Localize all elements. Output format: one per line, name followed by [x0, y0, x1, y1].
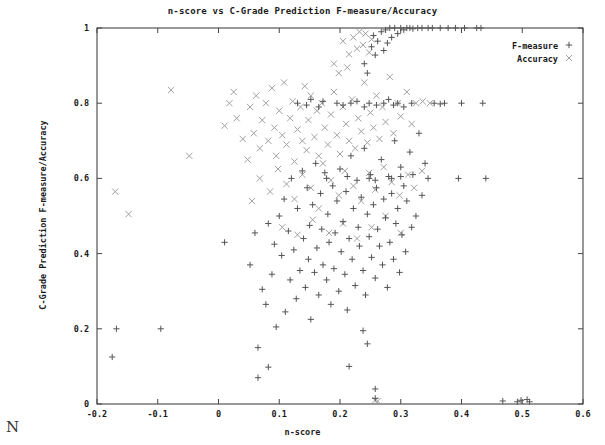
data-point-f-measure — [416, 130, 422, 136]
data-point-f-measure — [294, 205, 300, 211]
data-point-accuracy — [263, 100, 269, 106]
data-point-accuracy — [411, 185, 417, 191]
legend-markers — [566, 42, 572, 61]
data-point-f-measure — [311, 269, 317, 275]
data-point-accuracy — [420, 98, 426, 104]
data-point-accuracy — [336, 192, 342, 198]
data-point-accuracy — [265, 138, 271, 144]
data-point-f-measure — [221, 239, 227, 245]
data-point-f-measure — [413, 213, 419, 219]
data-point-f-measure — [375, 38, 381, 44]
y-axis-label: C-Grade Prediction F-measure/Accuracy — [38, 65, 48, 365]
x-tick-label: 0.5 — [502, 409, 542, 419]
data-point-f-measure — [452, 25, 458, 31]
data-point-accuracy — [354, 46, 360, 52]
data-point-accuracy — [350, 183, 356, 189]
data-point-f-measure — [307, 222, 313, 228]
data-point-accuracy — [294, 126, 300, 132]
scatter-plot-figure: n-score vs C-Grade Prediction F-measure/… — [0, 0, 605, 445]
data-point-f-measure — [387, 239, 393, 245]
data-point-accuracy — [271, 125, 277, 131]
data-point-f-measure — [322, 170, 328, 176]
data-point-accuracy — [358, 128, 364, 134]
data-point-f-measure — [360, 267, 366, 273]
data-point-accuracy — [366, 49, 372, 55]
data-point-f-measure — [348, 153, 354, 159]
data-point-accuracy — [226, 100, 232, 106]
data-point-accuracy — [251, 130, 257, 136]
y-tick-label: 0 — [49, 399, 89, 409]
data-point-f-measure — [287, 277, 293, 283]
data-point-f-measure — [303, 102, 309, 108]
data-point-accuracy — [409, 121, 415, 127]
data-point-f-measure — [372, 275, 378, 281]
data-point-f-measure — [282, 309, 288, 315]
data-point-f-measure — [336, 288, 342, 294]
data-point-f-measure — [370, 202, 376, 208]
data-point-f-measure — [330, 183, 336, 189]
y-tick-label: 0.4 — [49, 249, 89, 259]
data-point-accuracy — [368, 224, 374, 230]
data-point-f-measure — [247, 262, 253, 268]
data-point-f-measure — [338, 249, 344, 255]
data-point-f-measure — [310, 202, 316, 208]
data-point-f-measure — [276, 213, 282, 219]
data-point-accuracy — [382, 119, 388, 125]
legend-marker-accuracy — [566, 55, 572, 61]
data-point-f-measure — [113, 326, 119, 332]
data-point-accuracy — [273, 153, 279, 159]
data-point-accuracy — [168, 87, 174, 93]
data-point-f-measure — [255, 345, 261, 351]
data-point-accuracy — [247, 104, 253, 110]
data-point-f-measure — [461, 25, 467, 31]
data-point-accuracy — [253, 93, 259, 99]
data-point-f-measure — [364, 341, 370, 347]
data-point-f-measure — [263, 301, 269, 307]
data-point-accuracy — [331, 61, 337, 67]
data-point-f-measure — [300, 235, 306, 241]
data-point-accuracy — [249, 198, 255, 204]
data-point-accuracy — [334, 132, 340, 138]
data-point-f-measure — [273, 324, 279, 330]
data-point-f-measure — [401, 104, 407, 110]
data-point-f-measure — [370, 32, 376, 38]
data-point-f-measure — [316, 104, 322, 110]
data-point-f-measure — [445, 25, 451, 31]
data-point-accuracy — [294, 232, 300, 238]
x-tick-label: -0.2 — [77, 409, 117, 419]
data-point-accuracy — [245, 157, 251, 163]
data-point-f-measure — [313, 160, 319, 166]
data-point-f-measure — [294, 100, 300, 106]
data-point-f-measure — [366, 100, 372, 106]
data-point-f-measure — [455, 175, 461, 181]
data-point-f-measure — [375, 226, 381, 232]
data-point-accuracy — [316, 153, 322, 159]
data-point-f-measure — [331, 266, 337, 272]
data-point-f-measure — [389, 190, 395, 196]
data-point-accuracy — [267, 188, 273, 194]
data-point-accuracy — [125, 211, 131, 217]
data-point-f-measure — [398, 164, 404, 170]
data-point-f-measure — [407, 149, 413, 155]
data-point-f-measure — [255, 375, 261, 381]
data-point-accuracy — [328, 111, 334, 117]
data-point-f-measure — [382, 215, 388, 221]
data-point-accuracy — [387, 74, 393, 80]
data-point-f-measure — [381, 196, 387, 202]
data-point-f-measure — [285, 228, 291, 234]
data-point-accuracy — [231, 89, 237, 95]
data-point-f-measure — [384, 40, 390, 46]
data-point-f-measure — [395, 31, 401, 37]
data-point-accuracy — [281, 79, 287, 85]
data-point-accuracy — [419, 168, 425, 174]
data-point-f-measure — [344, 173, 350, 179]
data-point-accuracy — [299, 138, 305, 144]
data-point-accuracy — [257, 145, 263, 151]
axis-frame — [97, 28, 583, 404]
data-point-accuracy — [398, 113, 404, 119]
data-point-accuracy — [279, 132, 285, 138]
data-point-f-measure — [328, 301, 334, 307]
data-point-accuracy — [310, 217, 316, 223]
data-point-f-measure — [410, 26, 416, 32]
data-point-f-measure — [366, 175, 372, 181]
